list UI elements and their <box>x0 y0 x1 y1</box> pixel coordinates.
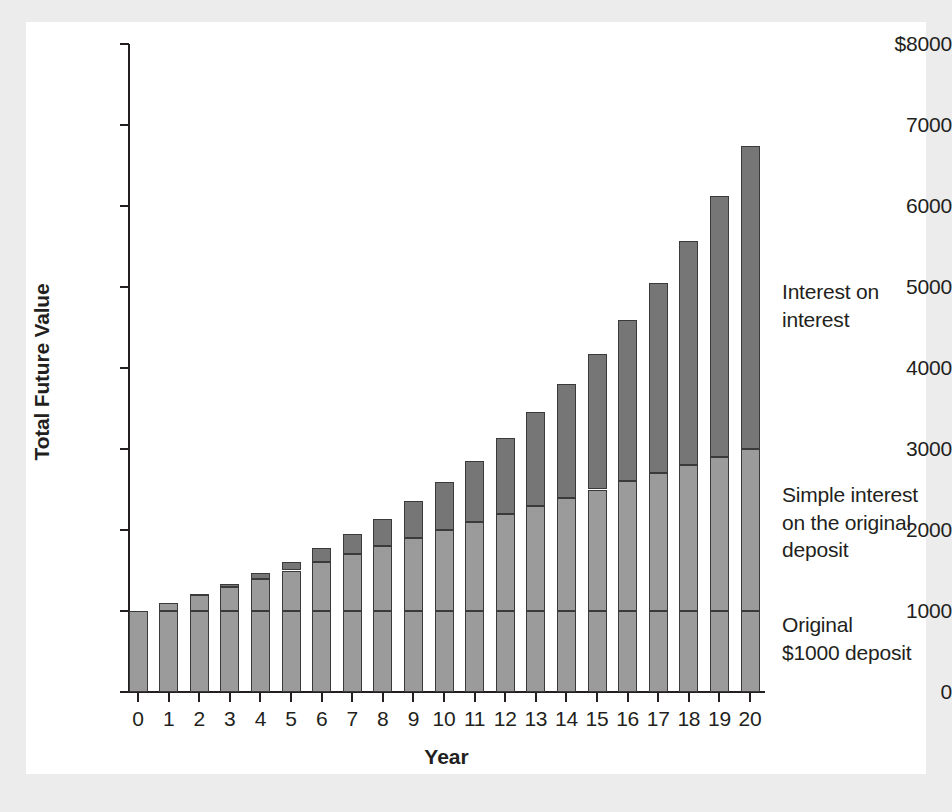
bar-segment-principal <box>465 611 484 692</box>
bar-segment-simple-interest <box>649 473 668 611</box>
bar-segment-interest-on-interest <box>526 412 545 505</box>
x-axis-tick <box>718 693 720 702</box>
x-axis-title: Year <box>128 745 765 769</box>
bar-segment-interest-on-interest <box>343 534 362 554</box>
bar-segment-simple-interest <box>710 457 729 611</box>
x-axis-tick <box>259 693 261 702</box>
bar <box>649 0 668 692</box>
y-axis-tick-label: 7000 <box>844 114 952 135</box>
x-axis-tick <box>657 693 659 702</box>
x-axis-tick <box>137 693 139 702</box>
bar-segment-principal <box>190 611 209 692</box>
bar-segment-simple-interest <box>618 481 637 611</box>
bar-segment-principal <box>679 611 698 692</box>
bar-segment-simple-interest <box>496 514 515 611</box>
bar-segment-principal <box>220 611 239 692</box>
bar-segment-simple-interest <box>588 490 607 612</box>
bar-segment-principal <box>526 611 545 692</box>
bar-segment-principal <box>496 611 515 692</box>
bar <box>373 0 392 692</box>
x-axis-tick <box>749 693 751 702</box>
bar-segment-principal <box>159 611 178 692</box>
bar-segment-interest-on-interest <box>282 562 301 571</box>
bar-segment-interest-on-interest <box>649 283 668 474</box>
bar <box>465 0 484 692</box>
bar-segment-interest-on-interest <box>373 519 392 546</box>
y-axis-tick-label: 6000 <box>844 195 952 216</box>
bar <box>435 0 454 692</box>
bar-segment-principal <box>251 611 270 692</box>
bar <box>220 0 239 692</box>
x-axis-tick <box>198 693 200 702</box>
bar <box>618 0 637 692</box>
x-axis-tick <box>688 693 690 702</box>
figure-container: $800070006000500040003000200010000 01234… <box>0 0 952 812</box>
x-axis-tick <box>443 693 445 702</box>
x-axis-tick <box>565 693 567 702</box>
x-axis-tick <box>321 693 323 702</box>
bar-segment-simple-interest <box>526 506 545 611</box>
bar-segment-simple-interest <box>159 603 178 611</box>
bar-segment-interest-on-interest <box>710 196 729 457</box>
bar <box>496 0 515 692</box>
x-axis-tick <box>412 693 414 702</box>
bar <box>343 0 362 692</box>
bar <box>588 0 607 692</box>
bar <box>526 0 545 692</box>
bar-segment-principal <box>282 611 301 692</box>
bar <box>679 0 698 692</box>
bar-segment-principal <box>588 611 607 692</box>
x-axis-tick <box>504 693 506 702</box>
bar <box>129 0 148 692</box>
bar-segment-simple-interest <box>404 538 423 611</box>
bar-segment-interest-on-interest <box>588 354 607 490</box>
bar-segment-simple-interest <box>679 465 698 611</box>
x-axis-tick-label: 20 <box>730 707 770 730</box>
bar-segment-principal <box>404 611 423 692</box>
y-axis-title: Total Future Value <box>30 182 54 562</box>
bar-segment-simple-interest <box>190 595 209 611</box>
bar-segment-principal <box>710 611 729 692</box>
bar-segment-interest-on-interest <box>220 584 239 587</box>
bar-segment-principal <box>129 611 148 692</box>
bar <box>159 0 178 692</box>
bar-segment-simple-interest <box>435 530 454 611</box>
bar-chart: $800070006000500040003000200010000 01234… <box>0 0 952 812</box>
bar-segment-principal <box>618 611 637 692</box>
x-axis-tick <box>627 693 629 702</box>
x-axis-tick <box>168 693 170 702</box>
bar-segment-simple-interest <box>373 546 392 611</box>
bar-segment-principal <box>373 611 392 692</box>
bar-segment-interest-on-interest <box>465 461 484 522</box>
y-axis-tick-label: 4000 <box>844 357 952 378</box>
bar <box>557 0 576 692</box>
bar <box>312 0 331 692</box>
bar-segment-principal <box>557 611 576 692</box>
bar-segment-interest-on-interest <box>190 594 209 596</box>
bar-segment-principal <box>741 611 760 692</box>
annotation-interest-on-interest: Interest on interest <box>782 278 879 333</box>
bar-segment-simple-interest <box>741 449 760 611</box>
bar-segment-interest-on-interest <box>679 241 698 465</box>
bar-segment-simple-interest <box>251 579 270 611</box>
x-axis-tick <box>474 693 476 702</box>
bar-segment-interest-on-interest <box>251 573 270 578</box>
bar <box>741 0 760 692</box>
bar-segment-simple-interest <box>557 498 576 611</box>
bar <box>251 0 270 692</box>
annotation-original-deposit: Original $1000 deposit <box>782 611 911 666</box>
bar-segment-principal <box>343 611 362 692</box>
bar-segment-simple-interest <box>282 571 301 612</box>
bar <box>404 0 423 692</box>
bar-segment-interest-on-interest <box>618 320 637 482</box>
x-axis-tick <box>351 693 353 702</box>
x-axis-tick <box>596 693 598 702</box>
bar <box>190 0 209 692</box>
bar <box>710 0 729 692</box>
x-axis-tick <box>229 693 231 702</box>
bar-segment-principal <box>435 611 454 692</box>
y-axis-tick-label: 3000 <box>844 438 952 459</box>
bar <box>282 0 301 692</box>
bar-segment-simple-interest <box>343 554 362 611</box>
bar-segment-interest-on-interest <box>404 501 423 538</box>
